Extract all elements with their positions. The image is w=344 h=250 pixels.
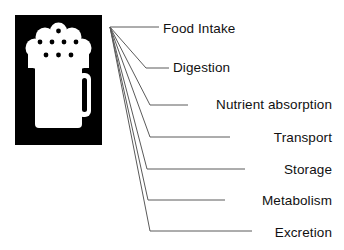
label-food-intake: Food Intake bbox=[163, 22, 235, 36]
label-transport: Transport bbox=[0, 131, 332, 145]
bubble-icon bbox=[56, 29, 61, 34]
label-nutrient-absorption: Nutrient absorption bbox=[0, 98, 332, 112]
label-digestion: Digestion bbox=[173, 61, 230, 75]
label-storage: Storage bbox=[0, 163, 332, 177]
bubble-icon bbox=[74, 40, 79, 45]
beer-mug-icon-panel bbox=[15, 15, 102, 145]
bubble-icon bbox=[44, 53, 49, 58]
diagram-canvas: Food IntakeDigestionNutrient absorptionT… bbox=[0, 0, 344, 250]
leader-line-digestion bbox=[110, 27, 169, 68]
bubble-icon bbox=[50, 40, 55, 45]
leader-line-transport bbox=[110, 27, 230, 137]
bubble-icon bbox=[38, 40, 43, 45]
label-excretion: Excretion bbox=[0, 226, 332, 240]
bubble-icon bbox=[69, 53, 74, 58]
beer-mug-icon bbox=[15, 15, 102, 145]
label-metabolism: Metabolism bbox=[0, 194, 332, 208]
bubble-icon bbox=[56, 53, 61, 58]
bubble-icon bbox=[62, 40, 67, 45]
